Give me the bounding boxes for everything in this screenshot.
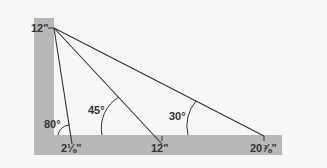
- line-30-degree: [54, 28, 264, 136]
- diagram-panel: 12" 2⅛" 12" 20⅞" 80° 45° 30°: [0, 0, 327, 168]
- blade-mark-2-label: 12": [151, 143, 168, 154]
- blade-mark-3-label: 20⅞": [250, 143, 277, 154]
- square-tongue: [34, 18, 54, 155]
- angle-30-label: 30°: [169, 111, 186, 122]
- arc-30-degree: [187, 101, 196, 135]
- arc-45-degree: [101, 97, 119, 135]
- angle-80-label: 80°: [44, 119, 61, 130]
- angle-45-label: 45°: [88, 105, 105, 116]
- line-45-degree: [54, 28, 162, 144]
- tongue-mark-label: 12": [31, 23, 48, 34]
- blade-mark-1-label: 2⅛": [61, 143, 82, 154]
